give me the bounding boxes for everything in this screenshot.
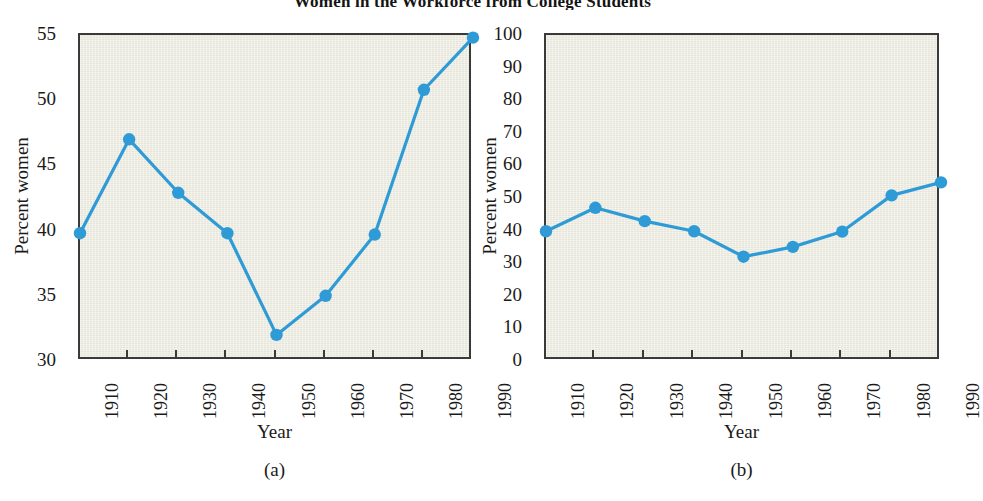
x-tick-label: 1940 (717, 383, 735, 419)
data-point-marker (221, 227, 233, 239)
x-tick-mark (592, 350, 594, 359)
x-tick-mark (889, 350, 891, 359)
data-point-marker (935, 176, 947, 188)
x-tick-mark (421, 350, 423, 359)
data-point-marker (418, 84, 430, 96)
panel-caption-b: (b) (544, 459, 939, 481)
y-tick-label: 60 (478, 154, 522, 173)
x-tick-label: 1940 (250, 383, 268, 419)
x-tick-label: 1950 (300, 383, 318, 419)
x-tick-label: 1970 (398, 383, 416, 419)
x-tick-label: 1970 (865, 383, 883, 419)
x-tick-label: 1930 (668, 383, 686, 419)
x-tick-label: 1980 (915, 383, 933, 419)
x-axis-label-b: Year (544, 421, 939, 443)
x-tick-mark (691, 350, 693, 359)
data-point-marker (319, 290, 331, 302)
data-point-marker (885, 189, 897, 201)
y-tick-label: 80 (478, 89, 522, 108)
y-tick-label: 50 (478, 187, 522, 206)
x-tick-mark (274, 350, 276, 359)
data-point-marker (123, 133, 135, 145)
x-tick-label: 1920 (618, 383, 636, 419)
y-tick-label: 40 (478, 220, 522, 239)
data-point-marker (74, 227, 86, 239)
data-point-marker (787, 241, 799, 253)
panel-b: Percent women 0102030405060708090100 191… (472, 0, 945, 501)
x-axis-label-a: Year (78, 421, 471, 443)
y-tick-label: 35 (12, 285, 56, 304)
data-point-marker (172, 187, 184, 199)
data-point-marker (589, 202, 601, 214)
y-tick-label: 90 (478, 57, 522, 76)
x-tick-label: 1960 (816, 383, 834, 419)
x-tick-mark (372, 350, 374, 359)
y-tick-label: 30 (12, 350, 56, 369)
y-tick-label: 20 (478, 285, 522, 304)
y-tick-label: 0 (478, 350, 522, 369)
series-line-b (546, 35, 941, 361)
x-tick-mark (175, 350, 177, 359)
data-point-marker (270, 329, 282, 341)
y-tick-label: 45 (12, 154, 56, 173)
x-tick-mark (126, 350, 128, 359)
y-tick-label: 40 (12, 220, 56, 239)
data-point-marker (639, 215, 651, 227)
data-point-marker (369, 228, 381, 240)
x-tick-label: 1910 (569, 383, 587, 419)
x-tick-mark (741, 350, 743, 359)
x-tick-mark (642, 350, 644, 359)
series-path (80, 38, 473, 335)
data-point-marker (836, 225, 848, 237)
x-tick-label: 1980 (447, 383, 465, 419)
x-tick-mark (224, 350, 226, 359)
series-path (546, 182, 941, 256)
y-tick-label: 100 (478, 24, 522, 43)
x-tick-label: 1960 (349, 383, 367, 419)
x-tick-mark (839, 350, 841, 359)
x-tick-label: 1920 (152, 383, 170, 419)
panel-a: Percent women 303540455055 1910192019301… (0, 0, 472, 501)
data-point-marker (737, 250, 749, 262)
data-point-marker (540, 225, 552, 237)
plot-area-a (78, 33, 471, 359)
y-tick-label: 30 (478, 252, 522, 271)
x-tick-label: 1990 (964, 383, 982, 419)
data-point-marker (688, 225, 700, 237)
x-tick-label: 1910 (103, 383, 121, 419)
y-tick-label: 10 (478, 317, 522, 336)
x-tick-label: 1950 (767, 383, 785, 419)
y-tick-label: 55 (12, 24, 56, 43)
x-tick-mark (323, 350, 325, 359)
y-tick-label: 50 (12, 89, 56, 108)
y-tick-label: 70 (478, 122, 522, 141)
x-tick-label: 1930 (201, 383, 219, 419)
plot-area-b (544, 33, 939, 359)
panel-caption-a: (a) (78, 459, 471, 481)
series-line-a (80, 35, 473, 361)
x-tick-mark (790, 350, 792, 359)
